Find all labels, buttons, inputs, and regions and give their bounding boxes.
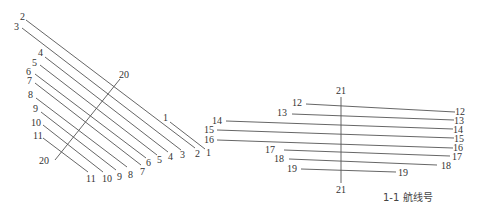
flight-line-15 (217, 130, 454, 138)
flight-line-14 (226, 121, 453, 129)
flight-line-8 (36, 98, 127, 167)
flight-line-19 (301, 169, 396, 172)
flight-line-start-label: 12 (292, 97, 302, 108)
flight-line-start-label: 11 (33, 130, 43, 141)
flight-line-start-label: 3 (14, 21, 19, 32)
flight-line-3 (22, 28, 181, 150)
flight-line-end-label: 7 (140, 166, 145, 177)
flight-line-2 (26, 20, 195, 148)
flight-line-start-label: 18 (274, 153, 284, 164)
flight-line-start-label: 13 (277, 107, 287, 118)
flight-line-end-label: 9 (117, 171, 122, 182)
flight-line-end-label: 19 (398, 167, 408, 178)
flight-line-end-label: 20 (119, 69, 129, 80)
flight-line-start-label: 1 (163, 112, 168, 123)
flight-line-end-label: 18 (441, 160, 451, 171)
flight-line-start-label: 20 (39, 155, 49, 166)
diagram-caption: 1-1 航线号 (383, 191, 433, 203)
flight-line-end-label: 1 (206, 147, 211, 158)
flight-line-end-label: 4 (168, 151, 173, 162)
flight-line-10 (43, 125, 103, 172)
flight-line-start-label: 16 (204, 134, 214, 145)
flight-line-start-label: 10 (31, 117, 41, 128)
flight-line-end-label: 6 (146, 157, 151, 168)
flight-line-16 (217, 140, 453, 148)
flight-line-12 (306, 104, 455, 112)
flight-line-start-label: 4 (38, 47, 43, 58)
flight-line-end-label: 21 (336, 184, 346, 195)
flight-line-17 (284, 150, 450, 156)
flight-line-9 (41, 112, 116, 170)
flight-line-start-label: 21 (336, 85, 346, 96)
flight-line-start-label: 7 (27, 75, 32, 86)
flight-line-end-label: 17 (452, 151, 462, 162)
flight-line-start-label: 9 (33, 103, 38, 114)
flight-line-5 (40, 65, 157, 155)
flight-line-end-label: 2 (195, 148, 200, 159)
right-flight-line-group: 121213131414151516161717181819192121 (204, 85, 465, 195)
flight-line-end-label: 3 (180, 149, 185, 160)
flight-line-start-label: 19 (287, 163, 297, 174)
flight-line-1 (170, 122, 205, 149)
flight-line-13 (292, 114, 454, 120)
left-flight-line-group: 223344556677889910101111112020 (14, 11, 211, 184)
flight-line-start-label: 5 (32, 57, 37, 68)
flight-line-18 (289, 159, 437, 165)
flight-line-diagram: 223344556677889910101111112020 121213131… (0, 0, 479, 215)
flight-line-end-label: 10 (102, 173, 112, 184)
flight-line-start-label: 8 (28, 89, 33, 100)
flight-line-start-label: 2 (20, 11, 25, 22)
flight-line-end-label: 5 (157, 154, 162, 165)
flight-line-end-label: 8 (128, 169, 133, 180)
flight-line-end-label: 11 (86, 173, 96, 184)
